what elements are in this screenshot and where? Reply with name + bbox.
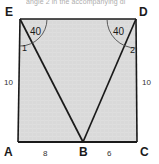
quadrilateral-fill bbox=[18, 19, 137, 142]
geometry-figure: angle 2 in the accompanying di E D A B C… bbox=[0, 0, 159, 164]
angle-measure-label-D: 40 bbox=[113, 27, 124, 37]
angle-measure-label-E: 40 bbox=[30, 27, 41, 37]
side-DC bbox=[136, 19, 137, 142]
vertex-label-A: A bbox=[4, 146, 13, 158]
vertex-label-C: C bbox=[140, 146, 149, 158]
numbered-angle-label-2: 2 bbox=[130, 46, 135, 55]
side-length-label-AE: 10 bbox=[4, 79, 13, 87]
vertex-label-B: B bbox=[79, 146, 88, 158]
side-length-label-DC: 10 bbox=[142, 79, 151, 87]
side-length-label-AB: 8 bbox=[43, 150, 47, 158]
vertex-label-D: D bbox=[139, 6, 148, 18]
vertex-label-E: E bbox=[5, 6, 13, 18]
numbered-angle-label-1: 1 bbox=[22, 44, 27, 53]
side-length-label-BC: 6 bbox=[107, 150, 111, 158]
figure-drawing bbox=[0, 0, 159, 164]
